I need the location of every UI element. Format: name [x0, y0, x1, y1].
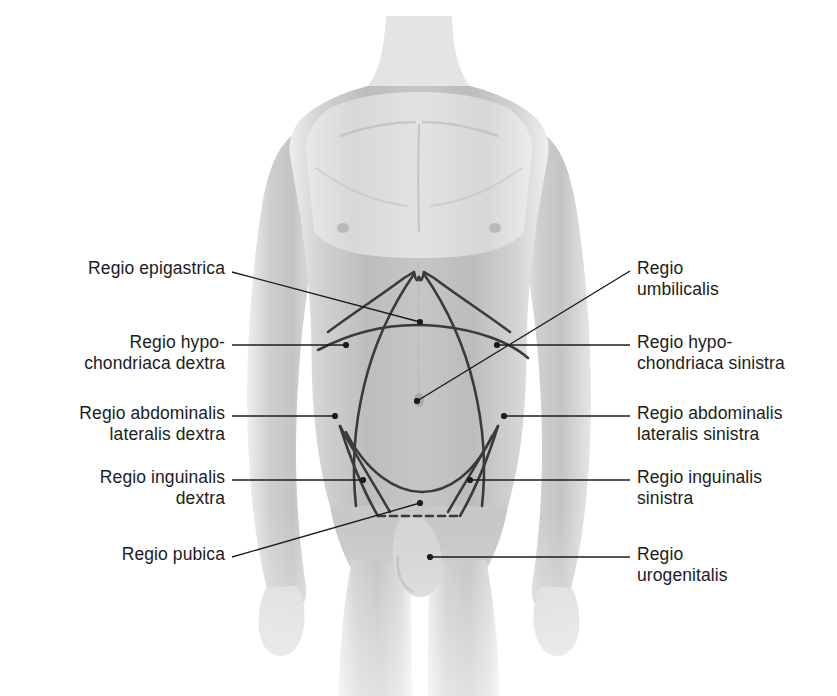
leader-dot-regio-umbilicalis [415, 399, 420, 404]
label-line: chondriaca dextra [0, 353, 225, 374]
label-regio-epigastrica: Regio epigastrica [0, 258, 225, 279]
label-line: lateralis dextra [0, 424, 225, 445]
label-regio-inguinalis-sinistra: Regio inguinalissinistra [637, 467, 837, 509]
leader-dot-regio-hypochondriaca-dextra [344, 343, 349, 348]
label-line: Regio pubica [0, 544, 225, 565]
leader-dot-regio-pubica [418, 501, 423, 506]
label-line: lateralis sinistra [637, 424, 837, 445]
leader-dot-regio-abdominalis-lateralis-dextra [333, 414, 338, 419]
label-line: sinistra [637, 488, 837, 509]
leader-dot-regio-inguinalis-dextra [361, 478, 366, 483]
label-regio-urogenitalis: Regiourogenitalis [637, 544, 837, 586]
label-line: Regio inguinalis [637, 467, 837, 488]
label-line: Regio epigastrica [0, 258, 225, 279]
label-line: urogenitalis [637, 565, 837, 586]
label-line: Regio abdominalis [0, 403, 225, 424]
label-regio-abdominalis-lateralis-dextra: Regio abdominalislateralis dextra [0, 403, 225, 445]
leader-dot-regio-hypochondriaca-sinistra [495, 343, 500, 348]
label-line: dextra [0, 488, 225, 509]
label-line: Regio [637, 258, 837, 279]
label-regio-inguinalis-dextra: Regio inguinalisdextra [0, 467, 225, 509]
label-regio-hypochondriaca-dextra: Regio hypo-chondriaca dextra [0, 332, 225, 374]
label-line: umbilicalis [637, 279, 837, 300]
label-line: Regio hypo- [637, 332, 837, 353]
label-regio-abdominalis-lateralis-sinistra: Regio abdominalislateralis sinistra [637, 403, 837, 445]
label-line: Regio [637, 544, 837, 565]
label-line: Regio abdominalis [637, 403, 837, 424]
label-regio-pubica: Regio pubica [0, 544, 225, 565]
label-line: Regio inguinalis [0, 467, 225, 488]
leader-dot-regio-urogenitalis [428, 555, 433, 560]
leader-dot-regio-epigastrica [418, 320, 423, 325]
leader-dot-regio-abdominalis-lateralis-sinistra [502, 414, 507, 419]
leader-dot-regio-inguinalis-sinistra [468, 478, 473, 483]
label-line: Regio hypo- [0, 332, 225, 353]
label-line: chondriaca sinistra [637, 353, 837, 374]
label-regio-hypochondriaca-sinistra: Regio hypo-chondriaca sinistra [637, 332, 837, 374]
label-regio-umbilicalis: Regioumbilicalis [637, 258, 837, 300]
